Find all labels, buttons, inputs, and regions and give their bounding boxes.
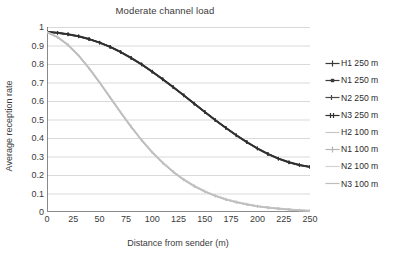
y-axis-tick-label: 0.3 [14, 152, 44, 161]
legend-item[interactable]: N3 250 m [324, 107, 402, 124]
legend-marker-icon [324, 58, 341, 69]
x-axis-ticks: 0255075100125150175200225250 [47, 215, 310, 229]
legend-marker-icon [324, 161, 341, 172]
y-axis-tick-label: 0.7 [14, 78, 44, 87]
series-line [47, 32, 310, 211]
legend-square [331, 79, 334, 82]
legend-marker-icon [324, 75, 341, 86]
legend-item[interactable]: H2 100 m [324, 124, 402, 141]
plot-svg [47, 27, 310, 212]
legend-item[interactable]: N1 100 m [324, 141, 402, 158]
series-line [47, 32, 310, 167]
series-n1-100-m [47, 31, 310, 212]
series-line [47, 32, 310, 211]
series-n2-100-m [47, 32, 310, 211]
y-axis-tick-label: 1 [14, 23, 44, 32]
x-axis-tick-label: 150 [197, 215, 212, 224]
x-axis-tick-label: 225 [276, 215, 291, 224]
series-line [47, 32, 310, 167]
legend-item[interactable]: H1 250 m [324, 55, 402, 72]
legend-item-label: H2 100 m [341, 128, 378, 137]
series-line [47, 33, 310, 212]
y-axis-tick-label: 0.9 [14, 41, 44, 50]
x-axis-tick-label: 125 [171, 215, 186, 224]
plot-area [47, 27, 310, 212]
y-axis-tick-label: 0.8 [14, 60, 44, 69]
series-n1-250-m [47, 30, 310, 168]
legend-item-label: N3 250 m [341, 111, 378, 120]
series-line [47, 32, 310, 167]
x-axis-tick-label: 0 [44, 215, 49, 224]
chart-container: Moderate channel load Average reception … [0, 0, 402, 256]
legend-item-label: N3 100 m [341, 180, 378, 189]
series-n3-250-m [47, 30, 310, 168]
legend-marker-icon [324, 127, 341, 138]
x-axis-label: Distance from sender (m) [46, 238, 310, 248]
series-line [47, 32, 310, 167]
y-axis-tick-label: 0.2 [14, 171, 44, 180]
y-axis-tick-label: 0.4 [14, 134, 44, 143]
legend-item-label: N2 100 m [341, 162, 378, 171]
x-axis-tick-label: 175 [224, 215, 239, 224]
legend-marker-icon [324, 178, 341, 189]
legend-item-label: H1 250 m [341, 59, 378, 68]
series-n3-100-m [47, 33, 310, 212]
y-axis-tick-label: 0.1 [14, 189, 44, 198]
y-axis-label-text: Average reception rate [4, 81, 14, 172]
legend-marker-icon [324, 110, 341, 121]
series-line [47, 32, 310, 211]
chart-title: Moderate channel load [0, 5, 330, 16]
legend-marker-icon [324, 144, 341, 155]
x-axis-tick-label: 250 [302, 215, 317, 224]
series-n2-250-m [47, 31, 310, 169]
y-axis-tick-label: 0.6 [14, 97, 44, 106]
y-axis-tick-label: 0 [14, 208, 44, 217]
legend-item[interactable]: N1 250 m [324, 72, 402, 89]
series-h2-100-m [47, 32, 310, 211]
legend-marker-icon [324, 92, 341, 103]
legend-item-label: N1 250 m [341, 76, 378, 85]
x-axis-tick-label: 50 [95, 215, 105, 224]
legend-item-label: N2 250 m [341, 94, 378, 103]
legend-item-label: N1 100 m [341, 145, 378, 154]
y-axis-tick-label: 0.5 [14, 115, 44, 124]
x-axis-tick-label: 100 [145, 215, 160, 224]
legend-item[interactable]: N2 100 m [324, 158, 402, 175]
y-axis-ticks: 00.10.20.30.40.50.60.70.80.91 [14, 27, 44, 212]
x-axis-tick-label: 200 [250, 215, 265, 224]
x-axis-tick-label: 25 [68, 215, 78, 224]
legend-item[interactable]: N2 250 m [324, 89, 402, 106]
legend-item[interactable]: N3 100 m [324, 175, 402, 192]
x-axis-tick-label: 75 [121, 215, 131, 224]
chart-legend: H1 250 mN1 250 mN2 250 mN3 250 mH2 100 m… [324, 55, 402, 193]
series-h1-250-m [47, 30, 310, 168]
